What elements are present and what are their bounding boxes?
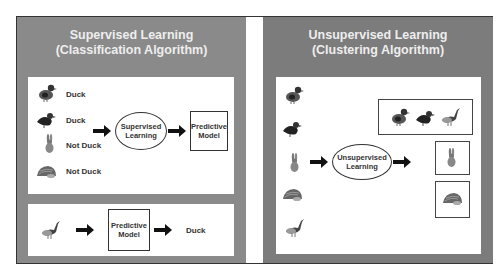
prediction-output: Duck	[186, 226, 206, 235]
unsupervised-title-line1: Unsupervised Learning	[263, 28, 493, 43]
cluster-rabbits	[435, 141, 470, 175]
training-label: Duck	[66, 116, 86, 125]
clustering-box: Unsupervised Learning	[276, 77, 481, 254]
hedgehog-icon	[282, 185, 306, 209]
arrow-right-icon	[154, 224, 174, 236]
unsupervised-learning-node: Unsupervised Learning	[332, 144, 392, 180]
duck-icon	[37, 83, 59, 105]
arrow-right-icon	[310, 156, 330, 168]
supervised-learning-node: Supervised Learning	[115, 112, 167, 150]
rabbit-icon	[40, 133, 62, 155]
training-box: Duck Duck Not Duck Not Duck Supervised L…	[28, 77, 234, 194]
test-box: Predictive Model Duck	[28, 204, 234, 256]
hedgehog-icon	[442, 189, 464, 211]
goose-icon	[440, 106, 464, 130]
arrow-right-icon	[76, 224, 96, 236]
duck-icon	[390, 107, 412, 129]
duck-dark-icon	[282, 118, 306, 142]
unsupervised-title-line2: (Clustering Algorithm)	[263, 43, 493, 58]
training-label: Not Duck	[66, 141, 101, 150]
cluster-birds	[378, 99, 473, 135]
duck-dark-icon	[36, 109, 58, 131]
rabbit-icon	[285, 152, 309, 176]
arrow-right-icon	[168, 125, 188, 137]
supervised-title: Supervised Learning (Classification Algo…	[17, 28, 246, 58]
hedgehog-icon	[36, 162, 58, 184]
duck-dark-icon	[415, 107, 437, 129]
goose-icon	[284, 217, 310, 243]
supervised-title-line2: (Classification Algorithm)	[17, 43, 246, 58]
cluster-hedgehogs	[435, 181, 470, 218]
unsupervised-panel: Unsupervised Learning (Clustering Algori…	[263, 17, 493, 263]
arrow-right-icon	[393, 156, 413, 168]
goose-icon	[40, 219, 62, 241]
training-label: Duck	[66, 90, 86, 99]
predictive-model-node: Predictive Model	[108, 209, 150, 251]
diagram-frame: Supervised Learning (Classification Algo…	[16, 16, 493, 264]
arrow-right-icon	[93, 125, 113, 137]
unsupervised-title: Unsupervised Learning (Clustering Algori…	[263, 28, 493, 58]
predictive-model-node: Predictive Model	[190, 111, 228, 151]
training-label: Not Duck	[66, 167, 101, 176]
duck-icon	[284, 85, 308, 109]
supervised-panel: Supervised Learning (Classification Algo…	[17, 17, 246, 263]
rabbit-icon	[442, 147, 464, 169]
supervised-title-line1: Supervised Learning	[17, 28, 246, 43]
